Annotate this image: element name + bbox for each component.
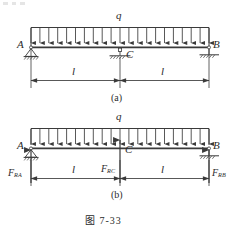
- reaction-label-fra: FRA: [8, 168, 22, 179]
- reaction-subscript-fra: RA: [14, 171, 22, 178]
- dimension-label-l-left-b: l: [72, 164, 75, 175]
- support-label-c-a: C: [126, 49, 133, 60]
- support-label-a-a: A: [17, 39, 24, 50]
- load-label-q-a: q: [116, 10, 122, 21]
- support-label-a-b: A: [17, 140, 24, 151]
- panel-label-a: (a): [111, 93, 122, 103]
- figure-caption: 图 7-33: [85, 216, 122, 226]
- dimension-label-l-right-a: l: [161, 66, 164, 77]
- load-label-q-b: q: [116, 111, 122, 122]
- figure-7-33: q A C B l l (a) q A C B FRA FRC FRB l l …: [0, 0, 242, 240]
- reaction-label-frb: FRB: [212, 168, 226, 179]
- support-label-c-b: C: [125, 144, 132, 155]
- reaction-subscript-frc: RC: [107, 167, 115, 174]
- dimension-label-l-right-b: l: [161, 164, 164, 175]
- dimension-label-l-left-a: l: [72, 66, 75, 77]
- support-label-b-b: B: [213, 140, 220, 151]
- reaction-subscript-frb: RB: [218, 171, 226, 178]
- support-label-b-a: B: [213, 39, 220, 50]
- panel-label-b: (b): [111, 190, 123, 200]
- reaction-label-frc: FRC: [101, 164, 115, 175]
